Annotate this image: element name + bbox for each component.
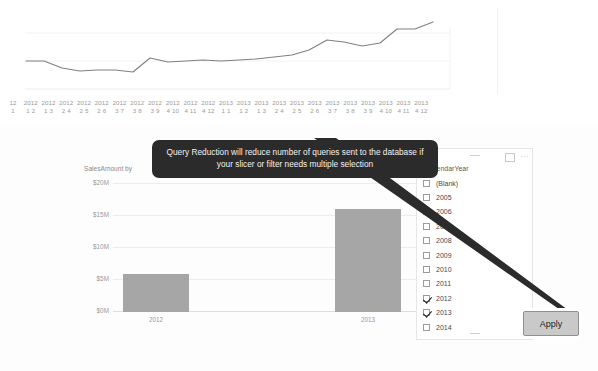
line-chart-visual[interactable] [0,0,472,96]
y-axis-label: $15M [82,211,109,218]
tooltip-pointer-arrow [330,168,572,318]
axis-tick: 20134 12 [408,99,434,116]
y-axis-label: $0M [82,307,109,314]
slicer-item-label: 2014 [436,324,452,331]
checkbox-icon[interactable] [423,324,430,331]
more-options-icon[interactable]: ··· [521,153,530,160]
y-axis-label: $20M [82,179,109,186]
axis-tick-period: 4 12 [408,107,434,115]
slicer-scroll-indicator-top [470,155,480,156]
focus-mode-icon[interactable] [505,153,515,162]
bar-2012[interactable] [123,274,189,312]
y-axis-label: $10M [82,243,109,250]
tooltip-text: Query Reduction will reduce number of qu… [162,147,428,170]
bar-chart-title: SalesAmount by [84,165,132,172]
query-reduction-tooltip: Query Reduction will reduce number of qu… [152,140,438,178]
x-axis-label: 2012 [123,316,189,323]
apply-button-label: Apply [540,319,563,329]
axis-tick-year: 2013 [408,99,434,107]
y-axis-label: $5M [82,275,109,282]
line-chart-axis-labels: 12120121 220121 320122 420122 520122 620… [0,99,472,123]
slicer-scroll-indicator-bottom [470,333,480,334]
apply-button[interactable]: Apply [523,311,579,336]
panel-divider [497,8,498,94]
